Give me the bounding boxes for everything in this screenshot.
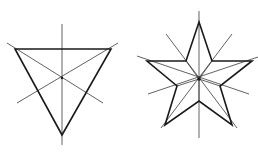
triangle-outline (15, 49, 111, 135)
triangle-with-axes (7, 24, 118, 145)
triangle-axis-line (17, 43, 118, 103)
star-inner-spoke (199, 61, 212, 79)
star-inner-spoke (186, 61, 199, 79)
star-center-dot (197, 77, 201, 81)
star-outline (147, 22, 252, 125)
star-with-axes (137, 11, 258, 138)
symmetry-figure (0, 0, 258, 153)
triangle-center-dot (61, 77, 63, 79)
figure-canvas: Equilateral triangle with 3 axes of symm… (0, 0, 258, 153)
triangle-axis-line (7, 43, 103, 103)
